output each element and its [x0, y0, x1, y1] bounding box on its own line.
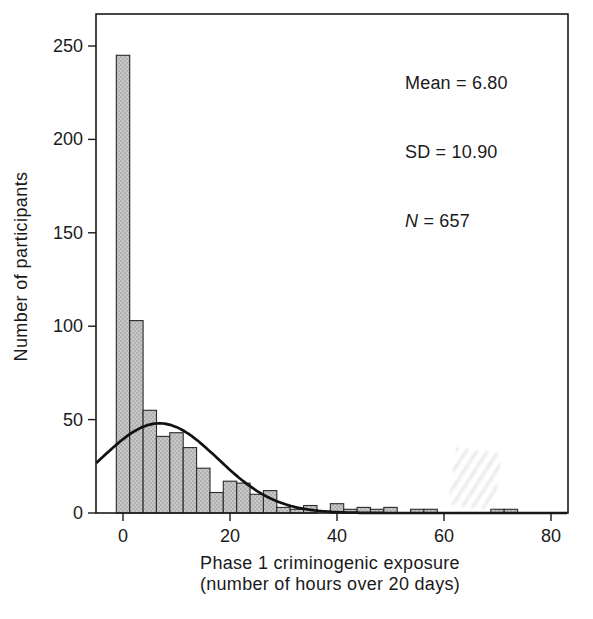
histogram-bar [223, 481, 236, 513]
x-axis-title-line2: (number of hours over 20 days) [200, 574, 460, 595]
y-tick-label: 200 [53, 129, 83, 149]
histogram-bar [156, 436, 169, 513]
y-tick-label: 0 [73, 503, 83, 523]
stat-n-symbol: N [405, 211, 418, 231]
stat-mean: Mean = 6.80 [405, 72, 508, 95]
y-tick-label: 150 [53, 223, 83, 243]
y-axis-title: Number of participants [11, 27, 32, 507]
scanned-figure-page: 020406080050100150200250 Mean = 6.80 SD … [0, 0, 593, 619]
x-axis-title-line1: Phase 1 criminogenic exposure [200, 553, 460, 574]
histogram-bar [183, 448, 196, 513]
histogram-bar [197, 468, 210, 513]
histogram-bar [170, 433, 183, 513]
scan-artifact [448, 447, 502, 511]
y-tick-label: 50 [63, 410, 83, 430]
histogram-bar [237, 483, 250, 513]
x-tick-label: 40 [327, 526, 347, 546]
x-tick-label: 0 [118, 526, 128, 546]
x-tick-label: 60 [434, 526, 454, 546]
histogram-bar [210, 493, 223, 514]
x-tick-label: 20 [220, 526, 240, 546]
histogram-bar [130, 321, 143, 513]
stat-n: N = 657 [405, 210, 508, 233]
histogram-bar [277, 507, 290, 513]
x-axis-title: Phase 1 criminogenic exposure (number of… [200, 553, 460, 595]
y-tick-label: 100 [53, 316, 83, 336]
stat-sd: SD = 10.90 [405, 141, 508, 164]
stats-annotation: Mean = 6.80 SD = 10.90 N = 657 [405, 26, 508, 279]
y-tick-label: 250 [53, 36, 83, 56]
stat-n-value: = 657 [418, 211, 470, 231]
x-tick-label: 80 [541, 526, 561, 546]
histogram-bar [250, 494, 263, 513]
